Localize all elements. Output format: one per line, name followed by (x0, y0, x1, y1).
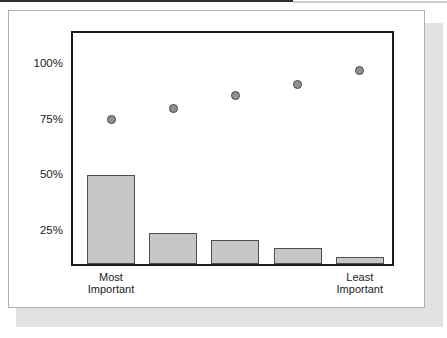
dot-marker-2 (169, 104, 178, 113)
y-tick-label-50: 50% (21, 168, 63, 181)
top-edge-line-light (293, 1, 447, 3)
bar-category-2 (149, 233, 197, 264)
y-axis-tick-labels: 100%75%50%25% (21, 33, 63, 264)
y-tick-label-25: 25% (21, 224, 63, 237)
x-axis-labels: Most ImportantLeast Important (73, 272, 392, 302)
x-axis-label-most: Most Important (71, 272, 151, 295)
bar-category-3 (211, 240, 259, 264)
plot-inner (73, 33, 392, 264)
bar-category-4 (274, 248, 322, 264)
figure-page: 100%75%50%25% Most ImportantLeast Import… (0, 0, 447, 338)
bar-category-5 (336, 257, 384, 264)
bar-category-1 (87, 175, 135, 264)
dot-marker-4 (293, 80, 302, 89)
top-edge-line-dark (0, 0, 293, 2)
x-axis-label-least: Least Important (320, 272, 400, 295)
y-tick-label-100: 100% (21, 57, 63, 70)
dot-marker-5 (355, 66, 364, 75)
y-tick-label-75: 75% (21, 113, 63, 126)
plot-area (71, 31, 394, 266)
figure-card: 100%75%50%25% Most ImportantLeast Import… (8, 10, 425, 308)
dot-marker-3 (231, 91, 240, 100)
dot-marker-1 (107, 115, 116, 124)
